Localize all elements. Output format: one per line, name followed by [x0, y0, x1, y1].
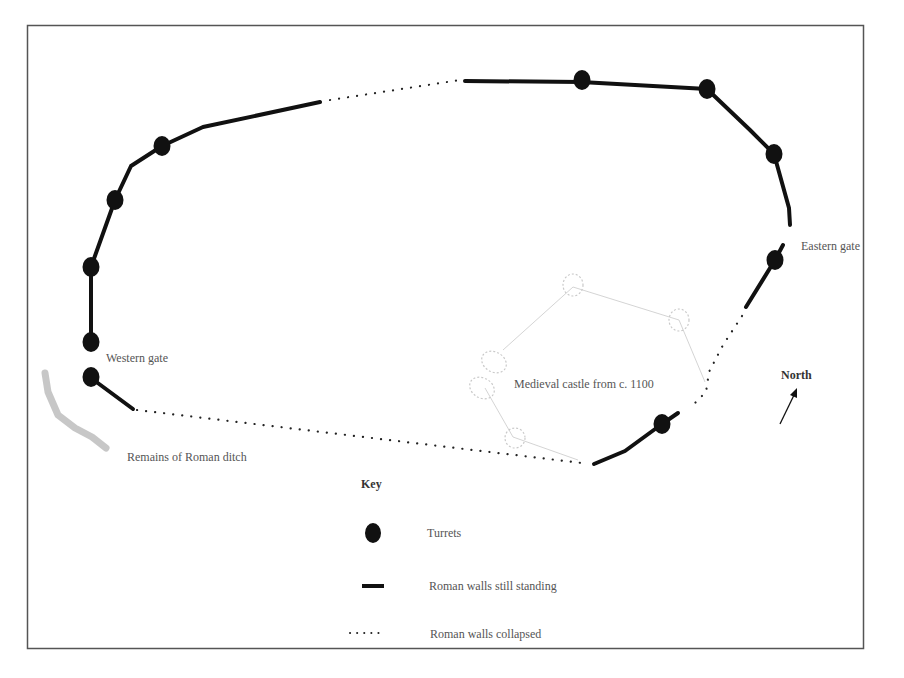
turret-icon — [654, 414, 671, 434]
turret-icon — [107, 190, 124, 210]
turret-icon — [83, 367, 100, 387]
key-title: Key — [361, 477, 382, 492]
collapsed-north — [330, 80, 460, 100]
western-gate-label: Western gate — [106, 351, 168, 366]
eastern-gate-label: Eastern gate — [801, 239, 860, 254]
key-symbols — [350, 523, 384, 633]
turret-icon — [83, 257, 100, 277]
collapsed-walls — [137, 80, 742, 463]
key-label-walls-standing: Roman walls still standing — [429, 579, 557, 594]
fort-map — [0, 0, 904, 678]
collapsed-east — [694, 316, 742, 404]
turret-icon — [83, 332, 100, 352]
turrets — [83, 70, 784, 434]
turret-icon — [154, 136, 171, 156]
north-label: North — [781, 368, 812, 383]
turret-icon — [767, 250, 784, 270]
turret-icon — [766, 144, 783, 164]
wall-north — [465, 81, 790, 225]
roman-ditch-label: Remains of Roman ditch — [127, 450, 247, 465]
wall-north-west — [91, 102, 320, 343]
key-turret-icon — [365, 523, 381, 543]
key-label-walls-collapsed: Roman walls collapsed — [430, 627, 541, 642]
north-arrow-icon — [780, 388, 797, 424]
key-label-turrets: Turrets — [427, 526, 461, 541]
medieval-castle-label: Medieval castle from c. 1100 — [514, 377, 654, 392]
turret-icon — [574, 70, 591, 90]
turret-icon — [699, 79, 716, 99]
medieval-castle-outline — [466, 274, 705, 460]
standing-walls — [91, 81, 790, 464]
